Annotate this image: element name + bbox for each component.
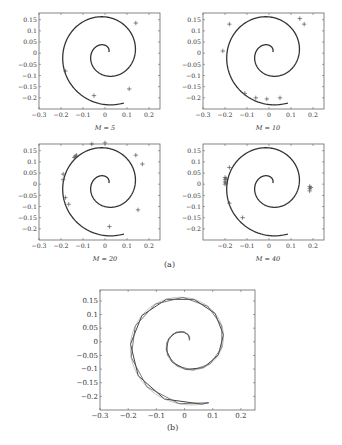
y-tick-label: 0.05 [187, 38, 201, 45]
figure: −0.3−0.2−0.100.10.20.150.10.050−0.05−0.1… [0, 0, 342, 445]
x-tick-label: 0 [182, 412, 186, 420]
y-tick-label: 0 [94, 338, 98, 346]
plus-marker [298, 16, 302, 20]
x-tick-label: −0.1 [75, 242, 90, 249]
y-tick-label: −0.05 [182, 61, 201, 68]
spiral-curve [227, 148, 300, 236]
y-tick-label: −0.2 [186, 225, 201, 232]
subplot-label: M = 20 [92, 255, 118, 263]
subplot-4: −0.2−0.100.10.20.150.10.050−0.05−0.1−0.1… [182, 144, 324, 263]
y-tick-label: 0.1 [191, 27, 201, 34]
caption-b: (b) [167, 423, 178, 432]
x-tick-label: −0.2 [120, 412, 137, 420]
x-tick-label: −0.3 [195, 111, 210, 118]
x-tick-label: 0.1 [286, 111, 296, 118]
x-tick-label: −0.1 [75, 111, 90, 118]
spiral-curve [63, 17, 136, 105]
plus-marker [243, 91, 247, 95]
plus-marker [90, 142, 94, 146]
plus-marker [140, 162, 144, 166]
x-tick-label: 0.1 [207, 412, 218, 420]
y-tick-label: 0.15 [187, 16, 201, 23]
plus-marker [134, 21, 138, 25]
y-tick-label: 0.05 [187, 169, 201, 176]
y-tick-label: 0.05 [23, 38, 37, 45]
plus-marker [136, 208, 140, 212]
y-tick-label: −0.15 [18, 214, 37, 221]
subplot-label: M = 5 [94, 124, 115, 132]
x-tick-label: 0.2 [144, 111, 154, 118]
plus-marker [309, 185, 313, 189]
y-tick-label: 0.05 [82, 324, 98, 332]
x-tick-label: 0.1 [122, 242, 132, 249]
piecewise-approx-line [131, 299, 224, 404]
x-tick-label: −0.2 [217, 111, 232, 118]
y-tick-label: −0.1 [186, 203, 201, 210]
x-tick-label: 0.1 [286, 242, 296, 249]
y-tick-label: 0.15 [82, 297, 98, 305]
x-tick-label: 0.1 [122, 111, 132, 118]
x-tick-label: −0.3 [31, 242, 46, 249]
plus-marker [103, 141, 107, 145]
plus-marker [240, 215, 244, 219]
plus-marker [107, 224, 111, 228]
caption-a: (a) [164, 260, 175, 269]
y-tick-label: 0 [33, 49, 37, 56]
x-tick-label: −0.2 [217, 242, 232, 249]
plus-marker [278, 96, 282, 100]
subplot-1: −0.3−0.2−0.100.10.20.150.10.050−0.05−0.1… [18, 13, 160, 132]
x-tick-label: 0.2 [308, 111, 318, 118]
y-tick-label: −0.05 [182, 192, 201, 199]
y-tick-label: 0.15 [187, 147, 201, 154]
x-tick-label: 0.2 [235, 412, 246, 420]
y-tick-label: −0.15 [77, 379, 98, 387]
x-tick-label: −0.2 [53, 111, 68, 118]
x-tick-label: −0.3 [92, 412, 109, 420]
y-tick-label: 0.1 [191, 158, 201, 165]
x-tick-label: 0 [103, 242, 107, 249]
plot-frame [100, 290, 255, 410]
y-tick-label: −0.15 [182, 214, 201, 221]
x-tick-label: 0 [267, 242, 271, 249]
plus-marker [134, 153, 138, 157]
plus-marker [227, 22, 231, 26]
y-tick-label: −0.1 [81, 365, 98, 373]
y-tick-label: −0.2 [186, 94, 201, 101]
y-tick-label: −0.1 [22, 72, 37, 79]
y-tick-label: 0 [33, 180, 37, 187]
plot-frame [203, 13, 324, 109]
x-tick-label: −0.2 [53, 242, 68, 249]
spiral-curve [227, 17, 300, 105]
y-tick-label: 0.1 [27, 27, 37, 34]
plus-marker [254, 96, 258, 100]
x-tick-label: −0.1 [239, 111, 254, 118]
x-tick-label: −0.1 [148, 412, 165, 420]
plus-marker [302, 22, 306, 26]
plus-marker [265, 97, 269, 101]
spiral-curve [63, 148, 136, 236]
x-tick-label: 0 [267, 111, 271, 118]
subplot-5: −0.3−0.2−0.100.10.20.150.10.050−0.05−0.1… [77, 290, 255, 420]
subplot-2: −0.3−0.2−0.100.10.20.150.10.050−0.05−0.1… [182, 13, 324, 132]
y-tick-label: 0.1 [87, 311, 98, 319]
y-tick-label: −0.15 [18, 83, 37, 90]
y-tick-label: 0 [197, 49, 201, 56]
y-tick-label: 0.05 [23, 169, 37, 176]
y-tick-label: −0.05 [18, 192, 37, 199]
plot-frame [203, 144, 324, 240]
y-tick-label: 0.1 [27, 158, 37, 165]
plot-frame [39, 144, 160, 240]
plus-marker [67, 202, 71, 206]
x-tick-label: 0.2 [308, 242, 318, 249]
subplot-label: M = 10 [255, 124, 281, 132]
y-tick-label: −0.2 [81, 393, 98, 401]
x-tick-label: 0 [103, 111, 107, 118]
plus-marker [308, 189, 312, 193]
plus-marker [221, 49, 225, 53]
plot-frame [39, 13, 160, 109]
subplot-label: M = 40 [255, 255, 281, 263]
y-tick-label: 0.15 [23, 147, 37, 154]
y-tick-label: −0.05 [77, 352, 98, 360]
x-tick-label: 0.2 [144, 242, 154, 249]
y-tick-label: 0 [197, 180, 201, 187]
